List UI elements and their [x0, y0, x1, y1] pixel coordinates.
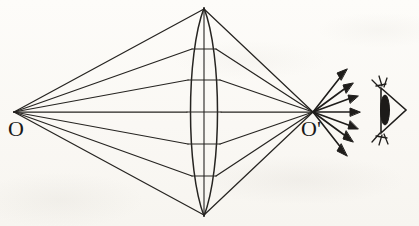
- eye-pupil: [381, 95, 390, 125]
- diverging-arrows-group: [313, 69, 360, 156]
- incident-ray-3: [14, 80, 188, 112]
- refracted-ray-2: [216, 49, 313, 112]
- incident-rays-group: [14, 9, 204, 215]
- incident-ray-6: [14, 112, 192, 176]
- refracted-ray-7: [204, 112, 313, 215]
- incident-ray-5: [14, 112, 188, 144]
- observer-eye: [372, 76, 406, 145]
- incident-ray-1: [14, 9, 204, 112]
- incident-ray-7: [14, 112, 204, 215]
- image-point-label: O': [301, 118, 321, 140]
- refracted-ray-3: [220, 80, 313, 112]
- object-point-label: O: [8, 118, 24, 140]
- ray-diagram-canvas: [0, 0, 419, 226]
- incident-ray-2: [14, 49, 192, 112]
- refracted-ray-5: [220, 112, 313, 144]
- refracted-ray-1: [204, 9, 313, 112]
- optics-ray-diagram: O O': [0, 0, 419, 226]
- refracted-ray-6: [216, 112, 313, 176]
